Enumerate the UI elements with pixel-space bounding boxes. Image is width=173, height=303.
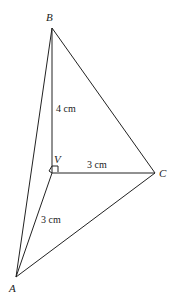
tetrahedron-diagram: B V C A 4 cm 3 cm 3 cm xyxy=(0,0,173,303)
edge-BA xyxy=(16,28,52,277)
vertex-label-B: B xyxy=(46,11,53,23)
vertex-label-A: A xyxy=(8,282,16,294)
length-label-VA: 3 cm xyxy=(41,214,61,225)
vertex-label-C: C xyxy=(159,167,167,179)
right-angle-marker xyxy=(52,166,58,172)
edge-VA xyxy=(16,173,52,277)
edge-BC xyxy=(52,28,155,173)
length-label-BV: 4 cm xyxy=(56,103,76,114)
edge-AC xyxy=(16,173,155,277)
length-label-VC: 3 cm xyxy=(87,159,107,170)
vertex-label-V: V xyxy=(54,153,62,165)
